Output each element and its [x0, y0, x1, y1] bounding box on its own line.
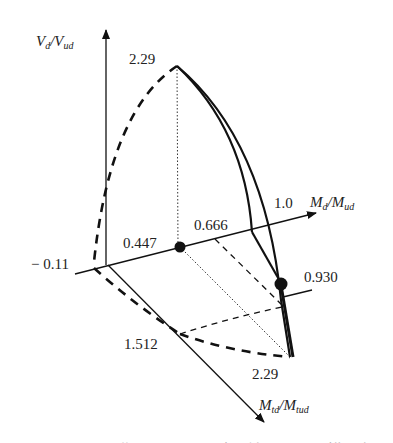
label-0666: 0.666: [194, 218, 228, 233]
solid-surface-curves: [177, 66, 293, 357]
label-1-0: 1.0: [274, 196, 293, 211]
mtd-axis-label: Mtd/Mtud: [259, 398, 309, 415]
point-0447: [175, 242, 186, 253]
md-axis-label: Md/Mud: [310, 195, 354, 212]
label-0930: 0.930: [304, 270, 338, 285]
vertical-axis-label: Vd/Vud: [36, 34, 74, 51]
base-dashed-lines: [180, 239, 283, 334]
interaction-diagram: Vd/Vud Md/Mud Mtd/Mtud 2.29 1.0 0.666 0.…: [0, 0, 393, 443]
label-0447: 0.447: [123, 236, 157, 251]
label-neg-011: − 0.11: [31, 257, 69, 272]
label-1512: 1.512: [124, 337, 158, 352]
projection-lines: [177, 66, 290, 357]
label-top-229: 2.29: [129, 52, 155, 67]
heavy-dashed-curves: [94, 66, 290, 357]
leader-0930: [283, 290, 312, 297]
figure-caption-partial: 图 ········ 曲 目 ······· 相 关 ······· 模 型: [0, 436, 393, 443]
label-front-229: 2.29: [252, 367, 278, 382]
point-0930: [275, 278, 288, 291]
